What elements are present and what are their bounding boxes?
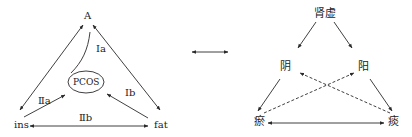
node-ins: ins (14, 120, 29, 130)
node-a: A (84, 11, 91, 21)
label-ib: Ⅰb (125, 88, 135, 98)
node-stasis: 瘀 (254, 117, 265, 127)
edge-a-pcos (71, 32, 90, 73)
node-fat: fat (154, 120, 168, 130)
node-kidney-deficiency: 肾虚 (314, 9, 336, 19)
node-yang: 阳 (358, 62, 369, 72)
node-phlegm: 痰 (388, 117, 399, 127)
diagram-canvas (0, 0, 412, 137)
label-iib: Ⅱb (79, 113, 92, 123)
label-ia: Ⅰa (96, 44, 106, 54)
edge-a-ins (20, 25, 83, 110)
node-yin: 阴 (280, 62, 291, 72)
label-iia: Ⅱa (38, 96, 51, 106)
node-pcos: PCOS (73, 77, 100, 87)
